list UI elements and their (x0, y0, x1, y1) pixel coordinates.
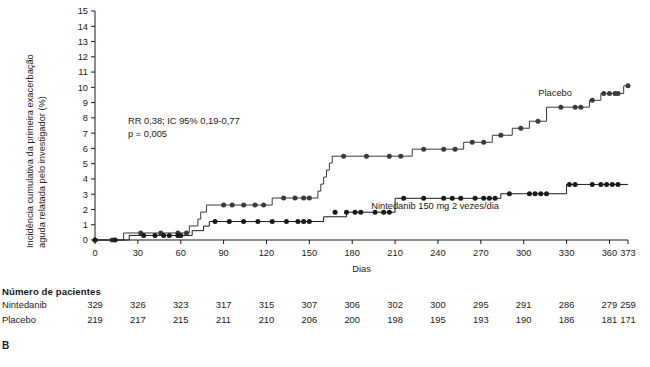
risk-table-row-placebo: Placebo 21921721521121020620019819519319… (0, 312, 650, 327)
censor-marker (178, 233, 183, 238)
censor-marker (387, 154, 392, 159)
censor-marker (601, 91, 606, 96)
x-axis: 0306090120150180210240270300330360373 (92, 240, 635, 258)
figure-panel-b: Incidência cumulativa da primeira exacer… (0, 0, 650, 367)
censor-marker (253, 203, 258, 208)
censor-marker (573, 105, 578, 110)
risk-table-cell: 217 (121, 312, 155, 327)
censor-marker (213, 219, 218, 224)
censor-marker (421, 196, 426, 201)
censor-marker (615, 91, 620, 96)
x-tick-label: 60 (176, 248, 186, 258)
panel-letter: B (2, 340, 9, 351)
risk-table-cell: 198 (378, 312, 412, 327)
risk-table-title: Número de pacientes (0, 286, 650, 297)
y-tick-label: 5 (83, 159, 88, 169)
y-tick-label: 12 (78, 52, 88, 62)
x-axis-title: Dias (352, 264, 371, 274)
censor-marker (573, 182, 578, 187)
censor-marker (626, 83, 631, 88)
censor-marker (615, 182, 620, 187)
risk-table-cell: 206 (292, 312, 326, 327)
risk-table-cell: 306 (335, 297, 369, 312)
censor-marker (450, 196, 455, 201)
risk-table-cell: 210 (249, 312, 283, 327)
risk-table-cell: 286 (550, 297, 584, 312)
risk-table-cell: 307 (292, 297, 326, 312)
y-tick-label: 13 (78, 37, 88, 47)
x-tick-label: 180 (344, 248, 360, 258)
censor-marker (441, 196, 446, 201)
risk-table-cell: 186 (550, 312, 584, 327)
censor-marker (458, 196, 463, 201)
censor-marker (607, 91, 612, 96)
risk-row-label: Nintedanib (2, 297, 47, 312)
y-tick-label: 6 (83, 144, 88, 154)
censor-marker (344, 210, 349, 215)
censor-marker (401, 196, 406, 201)
censor-marker (353, 210, 358, 215)
censor-marker (487, 196, 492, 201)
censor-marker (358, 210, 363, 215)
censor-marker (558, 105, 563, 110)
censor-marker (301, 219, 306, 224)
censor-marker (473, 196, 478, 201)
censor-marker (518, 126, 523, 131)
risk-table-cell: 315 (249, 297, 283, 312)
risk-table-cell: 326 (121, 297, 155, 312)
y-tick-label: 9 (83, 98, 88, 108)
risk-table-cell: 195 (421, 312, 455, 327)
censor-marker (544, 191, 549, 196)
censor-marker (307, 219, 312, 224)
censor-marker (598, 182, 603, 187)
censor-marker (255, 219, 260, 224)
y-tick-label: 7 (83, 129, 88, 139)
y-tick-label: 10 (78, 83, 88, 93)
risk-table-cell: 302 (378, 297, 412, 312)
censor-marker (421, 147, 426, 152)
y-tick-label: 4 (83, 174, 88, 184)
censor-marker (301, 196, 306, 201)
risk-table-cell: 295 (464, 297, 498, 312)
y-tick-label: 8 (83, 113, 88, 123)
number-at-risk-table: Número de pacientes Nintedanib 329326323… (0, 286, 650, 327)
y-tick-label: 0 (83, 235, 88, 245)
censor-marker (441, 147, 446, 152)
risk-table-cell: 193 (464, 312, 498, 327)
censor-marker (241, 219, 246, 224)
y-tick-label: 1 (83, 220, 88, 230)
risk-table-cell: 219 (78, 312, 112, 327)
curve-placebo (95, 86, 628, 240)
censor-marker (481, 196, 486, 201)
y-tick-label: 3 (83, 190, 88, 200)
x-tick-label: 120 (259, 248, 275, 258)
censor-marker (567, 182, 572, 187)
risk-table-cell: 190 (507, 312, 541, 327)
y-tick-label: 15 (78, 6, 88, 16)
censor-marker (184, 230, 189, 235)
x-tick-label: 150 (302, 248, 318, 258)
censor-marker (507, 191, 512, 196)
x-tick-label: 300 (516, 248, 532, 258)
censor-marker (261, 203, 266, 208)
y-tick-label: 11 (78, 67, 88, 77)
x-tick-label: 90 (218, 248, 228, 258)
risk-table-cell: 171 (611, 312, 645, 327)
risk-row-label: Placebo (2, 312, 36, 327)
censor-marker (295, 219, 300, 224)
y-tick-label: 14 (78, 22, 88, 32)
risk-table-cell: 300 (421, 297, 455, 312)
risk-table-cell: 329 (78, 297, 112, 312)
censor-marker (578, 105, 583, 110)
censor-marker (141, 233, 146, 238)
censor-marker (535, 119, 540, 124)
y-tick-label: 2 (83, 205, 88, 215)
series-label-placebo: Placebo (538, 88, 572, 98)
x-tick-label: 360 (602, 248, 618, 258)
censor-marker (307, 196, 312, 201)
censor-marker (270, 219, 275, 224)
censor-marker (364, 154, 369, 159)
x-tick-label: 30 (133, 248, 143, 258)
censor-marker (470, 140, 475, 145)
censor-marker (167, 233, 172, 238)
